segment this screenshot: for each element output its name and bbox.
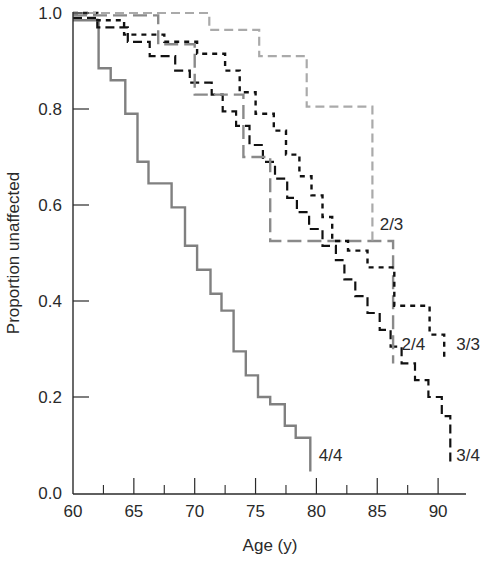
series-4-of-4-curve xyxy=(73,20,310,471)
series-label-3-of-4: 3/4 xyxy=(456,446,480,465)
series-label-3-of-3: 3/3 xyxy=(456,335,480,354)
x-tick-label: 80 xyxy=(307,502,326,521)
x-axis-title: Age (y) xyxy=(243,536,298,555)
x-tick-label: 85 xyxy=(368,502,387,521)
series-label-4-of-4: 4/4 xyxy=(319,446,343,465)
series-layer xyxy=(73,13,450,471)
y-tick-label: 0.2 xyxy=(38,388,62,407)
y-tick-label: 0.0 xyxy=(38,484,62,503)
series-label-2-of-4: 2/4 xyxy=(402,335,426,354)
y-tick-label: 0.4 xyxy=(38,292,62,311)
series-labels: 2/32/43/34/43/4 xyxy=(319,215,480,464)
y-axis-title: Proportion unaffected xyxy=(4,172,23,334)
x-tick-label: 75 xyxy=(246,502,265,521)
axes xyxy=(73,12,466,494)
series-3-of-3-curve xyxy=(73,13,444,361)
y-tick-label: 0.8 xyxy=(38,100,62,119)
y-tick-label: 0.6 xyxy=(38,196,62,215)
y-tick-label: 1.0 xyxy=(38,4,62,23)
x-tick-label: 60 xyxy=(64,502,83,521)
x-tick-label: 90 xyxy=(429,502,448,521)
survival-chart: 606570758085900.00.20.40.60.81.0 2/32/43… xyxy=(0,0,489,562)
ticks: 606570758085900.00.20.40.60.81.0 xyxy=(38,4,447,521)
series-2-of-3-curve xyxy=(73,13,372,241)
series-label-2-of-3: 2/3 xyxy=(380,215,404,234)
x-tick-label: 70 xyxy=(185,502,204,521)
x-tick-label: 65 xyxy=(124,502,143,521)
